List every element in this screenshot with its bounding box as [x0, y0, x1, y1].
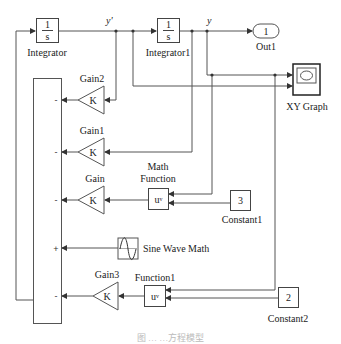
integrator1-den: s	[167, 31, 171, 42]
xy-graph-block[interactable]	[293, 64, 320, 95]
sine-wave-label: Sine Wave Math	[143, 243, 209, 254]
gain1-label: Gain1	[80, 125, 104, 136]
svg-text:K: K	[89, 147, 97, 158]
gain-label: Gain	[85, 173, 104, 184]
constant2-value: 2	[286, 292, 291, 303]
constant2-block[interactable]: 2	[278, 287, 299, 308]
integrator-den: s	[46, 31, 50, 42]
figure-caption: 图 … …方程模型	[0, 331, 341, 344]
integrator-block[interactable]: 1 s	[36, 18, 59, 43]
integrator-num: 1	[42, 20, 53, 31]
gain3-label: Gain3	[95, 269, 119, 280]
integrator1-num: 1	[163, 20, 174, 31]
svg-text:K: K	[89, 195, 97, 206]
function1-block[interactable]: uv	[144, 285, 166, 307]
svg-text:K: K	[103, 291, 111, 302]
gain2-label: Gain2	[80, 73, 104, 84]
sum-block[interactable]	[33, 78, 62, 324]
signal-label-y: y	[207, 15, 211, 26]
math-function-label-2: Function	[140, 173, 176, 184]
constant1-value: 3	[238, 195, 243, 206]
function1-sup: v	[156, 293, 159, 299]
signal-label-yprime: y'	[106, 15, 113, 26]
constant1-block[interactable]: 3	[230, 190, 251, 211]
svg-text:K: K	[89, 95, 97, 106]
xy-graph-label: XY Graph	[286, 101, 328, 112]
math-function-sup: v	[160, 196, 163, 202]
math-function-label-1: Math	[147, 161, 168, 172]
function1-label: Function1	[135, 272, 176, 283]
integrator1-block[interactable]: 1 s	[157, 18, 180, 43]
math-function-block[interactable]: uv	[148, 188, 169, 210]
integrator1-label: Integrator1	[146, 47, 190, 58]
integrator-label: Integrator	[27, 47, 66, 58]
out1-port[interactable]	[253, 24, 279, 38]
out1-label: Out1	[256, 41, 276, 52]
constant2-label: Constant2	[268, 313, 309, 324]
constant1-label: Constant1	[222, 214, 263, 225]
sine-wave-block[interactable]	[118, 238, 138, 259]
